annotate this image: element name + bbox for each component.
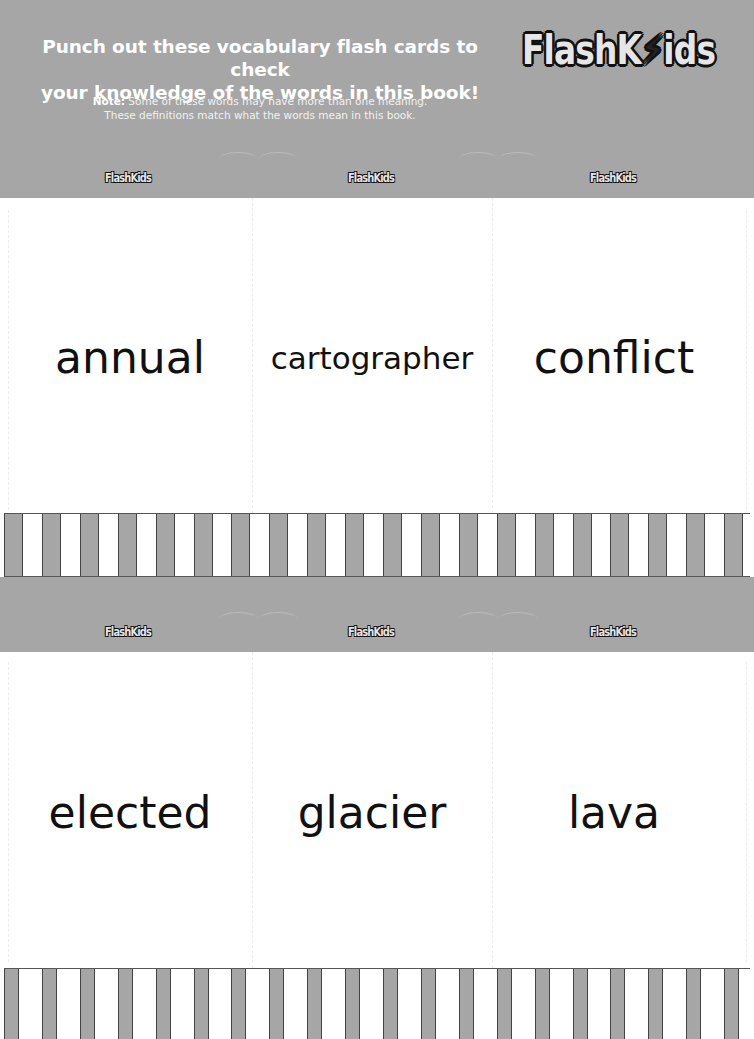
stripe xyxy=(459,969,474,1039)
stripe xyxy=(345,969,360,1039)
stripe xyxy=(156,514,175,576)
stripe xyxy=(535,969,550,1039)
tab-notch-arc xyxy=(458,152,498,167)
tab-notch-arc xyxy=(258,152,298,167)
stripe xyxy=(383,969,398,1039)
card-word-lava[interactable]: lava xyxy=(494,785,734,841)
tab-notch-arc xyxy=(458,612,498,627)
card-header-band: FlashKids FlashKids FlashKids xyxy=(0,577,754,652)
stripe xyxy=(42,514,61,576)
stripe xyxy=(497,514,516,576)
tab-notch-arc xyxy=(498,152,538,167)
lightning-bolt-icon: ⚡ xyxy=(641,27,663,73)
stripe xyxy=(686,514,705,576)
flashkids-logo: FlashK⚡ids xyxy=(522,22,670,78)
card-logo-annual: FlashKids xyxy=(95,170,161,186)
card-logo-cartographer: FlashKids xyxy=(338,170,404,186)
stripe xyxy=(80,969,95,1039)
stripe xyxy=(421,514,440,576)
card-edge xyxy=(746,662,747,962)
stripe xyxy=(724,969,739,1039)
stripe xyxy=(4,969,19,1039)
stripe xyxy=(345,514,364,576)
card-logo-conflict: FlashKids xyxy=(580,170,646,186)
stripe xyxy=(535,514,554,576)
stripe xyxy=(118,514,137,576)
card-word-glacier[interactable]: glacier xyxy=(252,785,492,841)
stripe xyxy=(269,514,288,576)
logo-part-k: K xyxy=(617,27,642,73)
stripe xyxy=(269,969,284,1039)
instructions-note: Note: Some of these words may have more … xyxy=(10,94,510,122)
logo-part-flash: Flash xyxy=(522,27,617,73)
stripe xyxy=(80,514,99,576)
stripe xyxy=(610,969,625,1039)
stripe xyxy=(573,514,592,576)
stripe xyxy=(307,969,322,1039)
stripe xyxy=(156,969,171,1039)
card-logo-glacier: FlashKids xyxy=(338,624,404,640)
logo-part-ids: ids xyxy=(663,27,715,73)
headline-line-1: Punch out these vocabulary flash cards t… xyxy=(10,35,510,81)
card-edge xyxy=(746,210,747,510)
tab-notch-arc xyxy=(498,612,538,627)
note-line-2: These definitions match what the words m… xyxy=(10,108,510,122)
card-logo-elected: FlashKids xyxy=(95,624,161,640)
tab-notch-arc xyxy=(218,612,258,627)
stripe xyxy=(724,514,743,576)
stripe xyxy=(421,969,436,1039)
stripe xyxy=(686,969,701,1039)
card-word-cartographer[interactable]: cartographer xyxy=(252,338,492,378)
stripe xyxy=(573,969,588,1039)
stripe xyxy=(42,969,57,1039)
stripe xyxy=(648,514,667,576)
stripe xyxy=(231,969,246,1039)
card-word-elected[interactable]: elected xyxy=(10,785,250,841)
stripe xyxy=(497,969,512,1039)
note-text-1: Some of these words may have more than o… xyxy=(125,95,427,107)
stripe xyxy=(194,514,213,576)
stripe xyxy=(4,514,23,576)
note-line-1: Note: Some of these words may have more … xyxy=(10,94,510,108)
stripe xyxy=(459,514,478,576)
card-word-conflict[interactable]: conflict xyxy=(494,330,734,386)
stripe xyxy=(383,514,402,576)
stripe xyxy=(648,969,663,1039)
card-edge xyxy=(8,662,9,962)
header-band: Punch out these vocabulary flash cards t… xyxy=(0,0,754,198)
stripe xyxy=(231,514,250,576)
card-word-annual[interactable]: annual xyxy=(10,330,250,386)
tab-notch-arc xyxy=(218,152,258,167)
perforation-stripes-bottom xyxy=(4,968,750,1039)
card-logo-lava: FlashKids xyxy=(580,624,646,640)
stripe xyxy=(194,969,209,1039)
tab-notch-arc xyxy=(258,612,298,627)
cut-line xyxy=(492,652,493,968)
stripe xyxy=(118,969,133,1039)
card-edge xyxy=(8,210,9,510)
note-label: Note: xyxy=(93,95,125,107)
stripe xyxy=(610,514,629,576)
perforation-stripes-top xyxy=(4,513,750,577)
cut-line xyxy=(492,198,493,513)
stripe xyxy=(307,514,326,576)
